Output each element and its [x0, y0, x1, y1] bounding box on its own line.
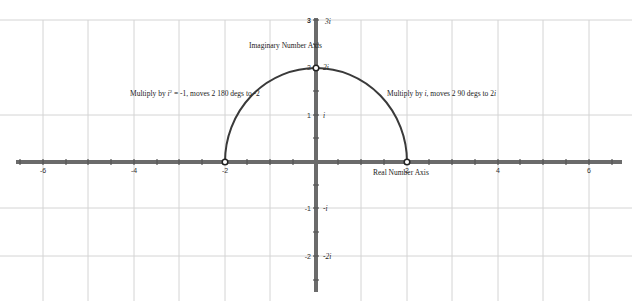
point-2i — [313, 65, 319, 71]
y-tick-label: -2 — [305, 253, 311, 260]
y-tick-label: 1 — [307, 112, 311, 119]
y-tick-labels-right: 3i 2i i -i -2i — [323, 17, 331, 261]
x-tick-label: -6 — [40, 167, 46, 174]
y-tick-labels-left: 3 2 1 -1 -2 — [305, 17, 311, 260]
annotation-multiply-i-squared: Multiply by i2 = -1, moves 2 180 degs to… — [130, 89, 260, 98]
point-2 — [404, 159, 410, 165]
x-tick-label: -4 — [131, 167, 137, 174]
y-tick-label-imag: -i — [323, 204, 328, 213]
y-tick-label-imag: -2i — [323, 252, 331, 261]
point-minus-2 — [222, 159, 228, 165]
y-axis-title: Imaginary Number Axis — [249, 41, 322, 50]
x-axis-title: Real Number Axis — [373, 168, 429, 177]
x-tick-label: -2 — [222, 167, 228, 174]
x-tick-label: 4 — [496, 167, 500, 174]
y-tick-label: 3 — [307, 17, 311, 24]
x-tick-label: 6 — [587, 167, 591, 174]
y-tick-label: -1 — [305, 205, 311, 212]
y-tick-label-imag: i — [323, 111, 325, 120]
complex-plane-chart: -6 -4 -2 2 4 6 3 2 1 -1 -2 3i 2i i -i -2… — [0, 0, 632, 301]
annotation-multiply-i: Multiply by i, moves 2 90 degs to 2i — [387, 89, 496, 98]
y-tick-label-imag: 3i — [324, 17, 331, 26]
